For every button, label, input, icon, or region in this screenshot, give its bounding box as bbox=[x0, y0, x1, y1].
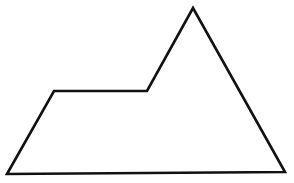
pentagon-diagram bbox=[0, 0, 294, 183]
pentagon-outline bbox=[7, 8, 285, 174]
